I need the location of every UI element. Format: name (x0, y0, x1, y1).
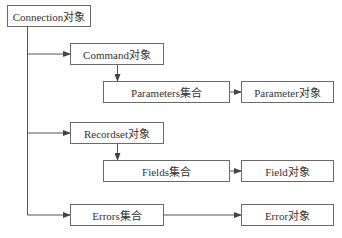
node-errors-collection: Errors集合 (70, 204, 164, 226)
connector-lines (0, 0, 342, 238)
node-error-object: Error对象 (241, 204, 334, 226)
node-connection-object: Connection对象 (7, 5, 91, 27)
node-command-object: Command对象 (70, 43, 164, 65)
node-parameter-object: Parameter对象 (241, 81, 334, 103)
node-parameters-collection: Parameters集合 (103, 81, 230, 103)
node-recordset-object: Recordset对象 (70, 122, 164, 144)
node-fields-collection: Fields集合 (103, 160, 230, 182)
node-field-object: Field对象 (241, 160, 334, 182)
